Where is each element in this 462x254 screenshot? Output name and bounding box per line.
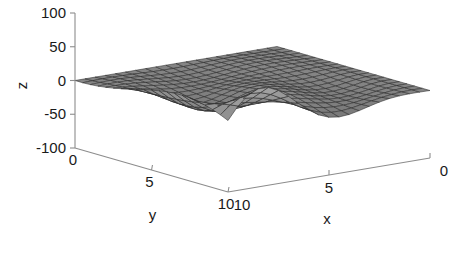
y-tick-mark — [152, 165, 153, 170]
x-tick-label: 10 — [234, 196, 251, 213]
z-tick-label: 50 — [49, 38, 66, 55]
y-tick-label: 10 — [218, 195, 235, 212]
surface-plot-figure: 100500-50-100z0510y1050x — [0, 0, 462, 254]
z-tick-label: 100 — [41, 4, 66, 21]
plot-canvas: 100500-50-100z0510y1050x — [0, 0, 462, 254]
y-tick-label: 0 — [69, 151, 77, 168]
z-axis-title: z — [13, 82, 30, 90]
z-tick-label: -50 — [44, 105, 66, 122]
x-axis-title: x — [323, 210, 331, 227]
x-tick-label: 5 — [325, 179, 333, 196]
y-axis-title: y — [149, 206, 157, 223]
y-tick-label: 5 — [145, 173, 153, 190]
z-tick-label: 0 — [58, 72, 66, 89]
z-tick-label: -100 — [36, 139, 66, 156]
surface-mesh — [75, 47, 430, 121]
y-tick-mark — [228, 187, 229, 192]
x-tick-label: 0 — [440, 162, 448, 179]
